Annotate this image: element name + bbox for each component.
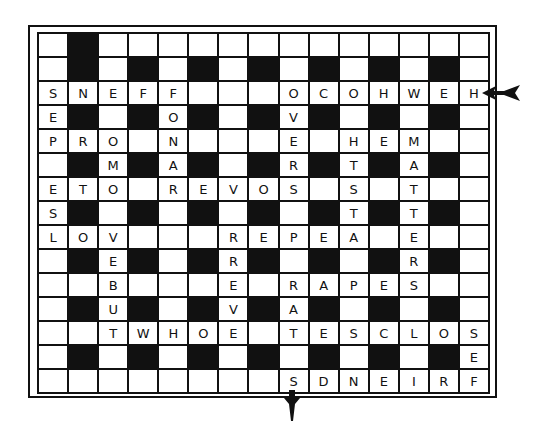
grid-cell[interactable] <box>340 58 368 80</box>
grid-cell[interactable] <box>340 346 368 368</box>
grid-cell[interactable] <box>129 178 157 200</box>
grid-cell[interactable] <box>400 346 428 368</box>
grid-cell[interactable] <box>189 34 217 56</box>
grid-cell[interactable] <box>129 130 157 152</box>
grid-cell[interactable] <box>460 250 488 272</box>
grid-cell[interactable] <box>39 274 67 296</box>
grid-cell[interactable]: C <box>310 82 338 104</box>
grid-cell[interactable]: E <box>189 178 217 200</box>
grid-cell[interactable] <box>219 82 247 104</box>
grid-cell[interactable]: N <box>340 370 368 392</box>
grid-cell[interactable]: A <box>310 274 338 296</box>
grid-cell[interactable]: S <box>400 274 428 296</box>
grid-cell[interactable] <box>39 154 67 176</box>
grid-cell[interactable]: E <box>310 226 338 248</box>
grid-cell[interactable]: S <box>340 322 368 344</box>
grid-cell[interactable]: V <box>219 298 247 320</box>
grid-cell[interactable] <box>460 106 488 128</box>
grid-cell[interactable]: E <box>249 226 277 248</box>
grid-cell[interactable]: I <box>400 370 428 392</box>
grid-cell[interactable] <box>129 226 157 248</box>
grid-cell[interactable]: R <box>219 226 247 248</box>
grid-cell[interactable] <box>159 370 187 392</box>
grid-cell[interactable] <box>460 202 488 224</box>
grid-cell[interactable]: L <box>39 226 67 248</box>
grid-cell[interactable]: O <box>69 226 97 248</box>
grid-cell[interactable]: H <box>370 82 398 104</box>
grid-cell[interactable]: U <box>99 298 127 320</box>
grid-cell[interactable] <box>39 34 67 56</box>
grid-cell[interactable] <box>249 130 277 152</box>
grid-cell[interactable] <box>39 346 67 368</box>
grid-cell[interactable] <box>280 34 308 56</box>
grid-cell[interactable] <box>430 226 458 248</box>
grid-cell[interactable] <box>129 274 157 296</box>
grid-cell[interactable]: M <box>400 130 428 152</box>
grid-cell[interactable] <box>159 34 187 56</box>
grid-cell[interactable] <box>400 298 428 320</box>
grid-cell[interactable]: T <box>340 202 368 224</box>
grid-cell[interactable] <box>189 370 217 392</box>
grid-cell[interactable]: S <box>280 370 308 392</box>
grid-cell[interactable]: L <box>400 322 428 344</box>
grid-cell[interactable]: E <box>99 82 127 104</box>
grid-cell[interactable] <box>189 82 217 104</box>
grid-cell[interactable] <box>129 34 157 56</box>
grid-cell[interactable] <box>460 274 488 296</box>
grid-cell[interactable]: P <box>280 226 308 248</box>
grid-cell[interactable] <box>340 34 368 56</box>
grid-cell[interactable] <box>69 274 97 296</box>
grid-cell[interactable] <box>460 298 488 320</box>
grid-cell[interactable] <box>159 346 187 368</box>
grid-cell[interactable]: E <box>370 274 398 296</box>
grid-cell[interactable]: W <box>400 82 428 104</box>
grid-cell[interactable]: O <box>99 178 127 200</box>
grid-cell[interactable]: F <box>460 370 488 392</box>
grid-cell[interactable]: V <box>99 226 127 248</box>
grid-cell[interactable] <box>430 178 458 200</box>
grid-cell[interactable]: T <box>340 154 368 176</box>
grid-cell[interactable] <box>460 154 488 176</box>
grid-cell[interactable] <box>460 130 488 152</box>
grid-cell[interactable]: A <box>400 154 428 176</box>
grid-cell[interactable] <box>249 82 277 104</box>
grid-cell[interactable] <box>249 34 277 56</box>
grid-cell[interactable] <box>39 370 67 392</box>
grid-cell[interactable] <box>280 202 308 224</box>
grid-cell[interactable] <box>219 58 247 80</box>
grid-cell[interactable] <box>310 34 338 56</box>
grid-cell[interactable] <box>99 106 127 128</box>
grid-cell[interactable]: T <box>280 322 308 344</box>
grid-cell[interactable]: S <box>280 178 308 200</box>
grid-cell[interactable] <box>99 202 127 224</box>
grid-cell[interactable] <box>460 34 488 56</box>
grid-cell[interactable] <box>310 178 338 200</box>
grid-cell[interactable]: E <box>460 346 488 368</box>
grid-cell[interactable]: O <box>99 130 127 152</box>
grid-cell[interactable] <box>159 58 187 80</box>
grid-cell[interactable] <box>430 34 458 56</box>
grid-cell[interactable]: T <box>400 178 428 200</box>
grid-cell[interactable] <box>99 34 127 56</box>
grid-cell[interactable]: R <box>280 274 308 296</box>
grid-cell[interactable]: E <box>99 250 127 272</box>
grid-cell[interactable]: R <box>159 178 187 200</box>
grid-cell[interactable] <box>370 178 398 200</box>
grid-cell[interactable] <box>340 298 368 320</box>
grid-cell[interactable] <box>219 346 247 368</box>
grid-cell[interactable] <box>159 226 187 248</box>
grid-cell[interactable]: D <box>310 370 338 392</box>
grid-cell[interactable] <box>219 130 247 152</box>
grid-cell[interactable]: C <box>370 322 398 344</box>
grid-cell[interactable] <box>249 274 277 296</box>
grid-cell[interactable] <box>460 58 488 80</box>
grid-cell[interactable] <box>249 370 277 392</box>
grid-cell[interactable]: O <box>249 178 277 200</box>
grid-cell[interactable]: O <box>159 106 187 128</box>
grid-cell[interactable]: F <box>159 82 187 104</box>
grid-cell[interactable] <box>39 322 67 344</box>
grid-cell[interactable] <box>39 58 67 80</box>
grid-cell[interactable] <box>39 298 67 320</box>
grid-cell[interactable]: H <box>340 130 368 152</box>
grid-cell[interactable]: O <box>189 322 217 344</box>
